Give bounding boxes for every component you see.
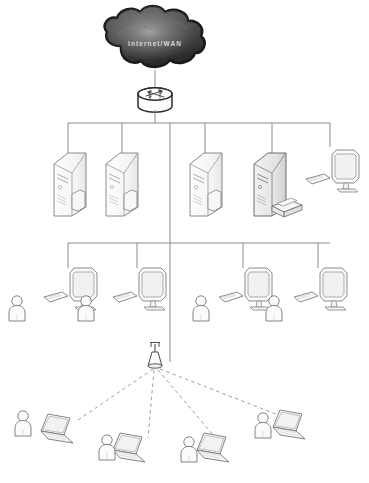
cloud-label: Internet/WAN [128, 40, 182, 47]
router-icon[interactable] [138, 88, 172, 112]
internet-cloud[interactable]: Internet/WAN [105, 6, 205, 67]
server-icon[interactable] [54, 153, 86, 216]
server-icon[interactable] [190, 153, 222, 216]
desktop-icon[interactable] [306, 150, 359, 192]
server-printer-icon[interactable] [254, 153, 302, 217]
desktop-icon[interactable] [294, 268, 347, 310]
topology-canvas: Internet/WAN [0, 0, 369, 483]
laptop-icon[interactable] [41, 414, 73, 443]
avatar [9, 296, 25, 321]
desktop-icon[interactable] [219, 268, 272, 310]
laptop-icon[interactable] [197, 433, 229, 462]
avatar [99, 435, 115, 460]
avatar [15, 411, 31, 436]
laptop-icon[interactable] [113, 433, 145, 462]
wireless-access-point-icon[interactable] [148, 343, 162, 369]
laptop-icon[interactable] [273, 410, 305, 439]
server-icon[interactable] [106, 153, 138, 216]
workstation-bus [68, 243, 330, 268]
server-bus [68, 123, 330, 153]
avatar [181, 437, 197, 462]
wireless-links [78, 369, 286, 438]
avatar [255, 413, 271, 438]
avatar [193, 296, 209, 321]
desktop-icon[interactable] [113, 268, 166, 310]
network-topology-diagram: Internet/WAN [0, 0, 369, 483]
